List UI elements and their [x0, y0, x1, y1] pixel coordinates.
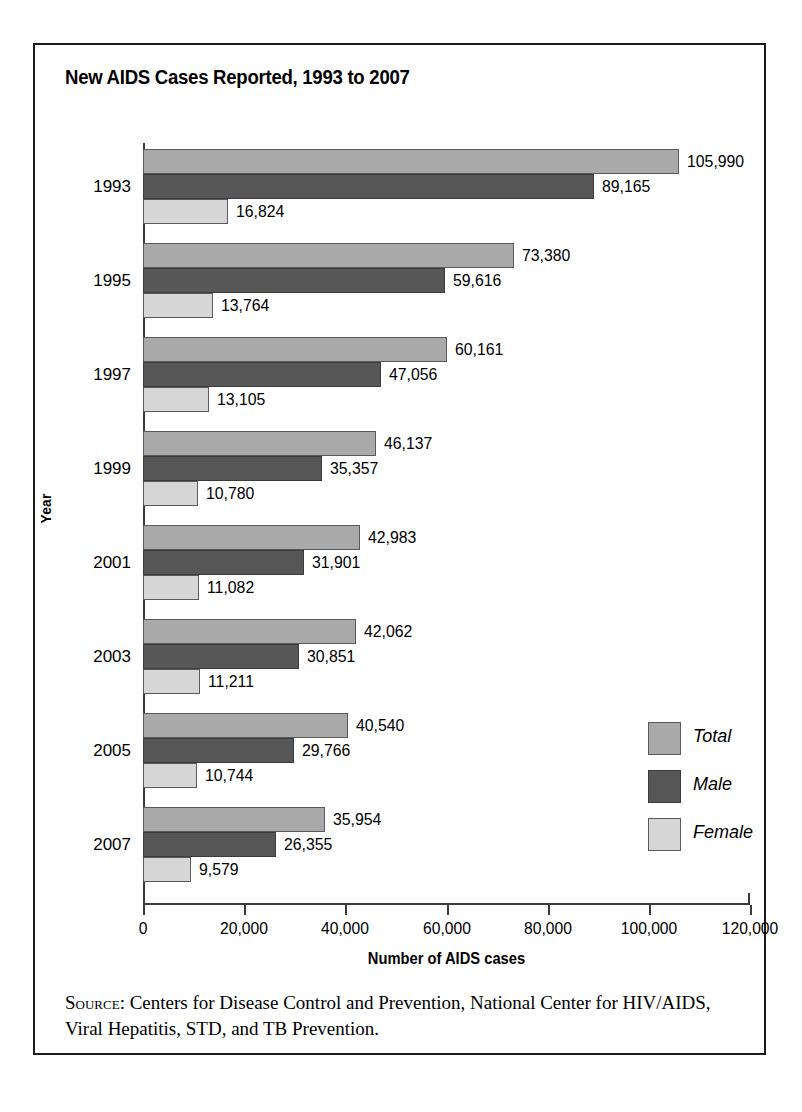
legend-swatch-male	[648, 770, 681, 803]
bar-value-label: 73,380	[522, 243, 570, 268]
x-axis-tick-label: 80,000	[524, 919, 572, 939]
bar-value-label: 11,211	[208, 669, 254, 694]
x-axis-tick-label: 40,000	[321, 919, 369, 939]
bar-value-label: 10,780	[206, 481, 254, 506]
bar-value-label: 47,056	[389, 362, 437, 387]
year-label-1993: 1993	[51, 174, 131, 199]
x-axis-tick-label: 100,000	[621, 919, 678, 939]
bar-total-2005	[143, 713, 348, 738]
bar-value-label: 42,062	[364, 619, 412, 644]
bar-value-label: 9,579	[199, 857, 239, 882]
bar-value-label: 105,990	[687, 149, 744, 174]
bar-total-1993	[143, 149, 679, 174]
bar-total-2007	[143, 807, 325, 832]
legend-swatch-total	[648, 722, 681, 755]
year-label-1995: 1995	[51, 268, 131, 293]
x-axis-tick-label: 20,000	[220, 919, 268, 939]
bar-value-label: 29,766	[302, 738, 350, 763]
bar-value-label: 16,824	[236, 199, 284, 224]
x-axis-tick-label: 0	[139, 919, 148, 939]
bar-value-label: 26,355	[284, 832, 332, 857]
bar-female-2005	[143, 763, 197, 788]
bar-male-1993	[143, 174, 594, 199]
source-text: Centers for Disease Control and Preventi…	[65, 992, 711, 1039]
bar-value-label: 13,764	[221, 293, 269, 318]
x-axis-tick	[649, 905, 651, 915]
bar-value-label: 35,357	[330, 456, 378, 481]
bar-total-1997	[143, 337, 447, 362]
y-axis-title: Year	[37, 494, 54, 524]
legend-swatch-female	[648, 818, 681, 851]
x-axis-tick-label: 60,000	[423, 919, 471, 939]
bar-female-1995	[143, 293, 213, 318]
bar-value-label: 30,851	[307, 644, 355, 669]
bar-male-2003	[143, 644, 299, 669]
legend-label-total: Total	[693, 726, 731, 747]
bar-female-1997	[143, 387, 209, 412]
bar-male-1995	[143, 268, 445, 293]
x-axis-tick	[143, 905, 145, 915]
bar-value-label: 10,744	[205, 763, 253, 788]
bar-total-2003	[143, 619, 356, 644]
x-axis-tick	[447, 905, 449, 915]
bar-value-label: 60,161	[455, 337, 503, 362]
x-axis-end-cap	[748, 893, 750, 905]
bar-total-2001	[143, 525, 360, 550]
bar-value-label: 31,901	[312, 550, 360, 575]
bar-value-label: 40,540	[356, 713, 404, 738]
year-label-1997: 1997	[51, 362, 131, 387]
legend-label-female: Female	[693, 822, 753, 843]
year-label-2003: 2003	[51, 644, 131, 669]
bar-male-2001	[143, 550, 304, 575]
x-axis-title: Number of AIDS cases	[167, 950, 725, 968]
bar-male-1997	[143, 362, 381, 387]
bar-female-1993	[143, 199, 228, 224]
bar-value-label: 59,616	[453, 268, 501, 293]
x-axis-tick-label: 120,000	[722, 919, 779, 939]
source-label: Source:	[65, 992, 125, 1013]
bar-total-1999	[143, 431, 376, 456]
bar-value-label: 89,165	[602, 174, 650, 199]
bar-value-label: 46,137	[384, 431, 432, 456]
figure-frame: New AIDS Cases Reported, 1993 to 2007 02…	[33, 43, 766, 1055]
bar-value-label: 13,105	[217, 387, 265, 412]
year-label-2005: 2005	[51, 738, 131, 763]
bar-male-1999	[143, 456, 322, 481]
chart-plot-area: 020,00040,00060,00080,000100,000120,000 …	[35, 45, 768, 1057]
year-label-2007: 2007	[51, 832, 131, 857]
bar-total-1995	[143, 243, 514, 268]
bar-female-2001	[143, 575, 199, 600]
bar-value-label: 11,082	[207, 575, 254, 600]
year-label-2001: 2001	[51, 550, 131, 575]
x-axis-tick	[345, 905, 347, 915]
source-note: Source: Centers for Disease Control and …	[65, 990, 725, 1042]
bar-value-label: 42,983	[368, 525, 416, 550]
bar-male-2005	[143, 738, 294, 763]
bar-female-2003	[143, 669, 200, 694]
bar-value-label: 35,954	[333, 807, 381, 832]
legend-label-male: Male	[693, 774, 732, 795]
bar-female-1999	[143, 481, 198, 506]
x-axis-tick	[548, 905, 550, 915]
x-axis-tick	[244, 905, 246, 915]
bar-male-2007	[143, 832, 276, 857]
x-axis-tick	[750, 905, 752, 915]
bar-female-2007	[143, 857, 191, 882]
year-label-1999: 1999	[51, 456, 131, 481]
